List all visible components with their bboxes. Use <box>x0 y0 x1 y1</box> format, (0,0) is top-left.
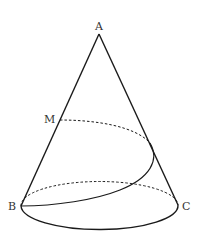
base-ellipse-back <box>21 181 178 206</box>
label-A: A <box>94 20 104 33</box>
cone-figure: A M B C <box>0 0 203 243</box>
base-ellipse-front <box>21 205 178 230</box>
cone-diagram: A M B C <box>0 0 203 243</box>
generatrix-AC <box>99 34 178 205</box>
helix-path-hidden <box>60 120 150 143</box>
label-B: B <box>8 200 16 213</box>
label-C: C <box>182 200 190 213</box>
label-M: M <box>44 113 55 126</box>
helix-path-visible <box>21 143 154 206</box>
